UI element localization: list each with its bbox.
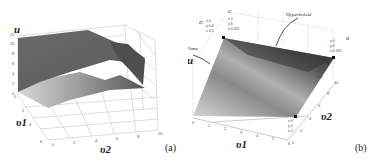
legend-a-z: z 12 xyxy=(316,75,323,79)
x-tick: 10 xyxy=(158,131,163,136)
legend-b-z: z 0.502 xyxy=(330,49,342,53)
y-tick: 0 xyxy=(292,140,295,145)
legend-d-z: z 0.5 xyxy=(206,29,214,33)
y-tick: 6 xyxy=(318,103,321,108)
plane-arrow xyxy=(193,55,210,64)
corner-label-b: B xyxy=(346,36,349,41)
legend-d-x: x 0 xyxy=(206,19,211,23)
panel-b: Hyperboloid Plane u D x 0 y 0.6 z 0.5 C … xyxy=(188,0,378,163)
hyperboloid-annotation: Hyperboloid xyxy=(285,12,312,17)
surface-plot-b: Hyperboloid Plane u D x 0 y 0.6 z 0.5 C … xyxy=(188,0,378,163)
x-tick: 8 xyxy=(137,134,140,139)
legend-a-x: x 6 xyxy=(316,65,321,69)
legend-d-y: y 0.6 xyxy=(206,24,214,28)
surface-plot-a: 0 2 4 6 8 10 12 0 2 4 6 8 10 0 2 4 6 u υ… xyxy=(0,0,190,163)
x-tick: 0 xyxy=(52,142,55,147)
x-tick: 6 xyxy=(288,141,291,146)
legend-c-y: y 6 xyxy=(228,22,233,26)
hyperboloid-arrow xyxy=(276,18,298,46)
y-tick: 8 xyxy=(327,91,330,96)
y-tick: 4 xyxy=(29,122,32,127)
x-tick: 6 xyxy=(116,136,119,141)
legend-b-y: y 6 xyxy=(330,44,335,48)
corner-label-d: D xyxy=(198,20,203,25)
y-axis-label: υ2 xyxy=(321,110,332,122)
y-tick: 4 xyxy=(309,116,312,121)
x-tick: 4 xyxy=(95,138,98,143)
legend-c-z: z 0.502 xyxy=(228,27,240,31)
x-tick: 4 xyxy=(256,133,259,138)
legend-e-z: z 1 xyxy=(288,129,293,133)
plane-annotation: Plane xyxy=(188,46,198,51)
legend-c-x: x 0 xyxy=(228,17,233,21)
z-tick: 8 xyxy=(12,51,15,56)
z-axis-label: u xyxy=(188,54,193,66)
y-axis-label: υ1 xyxy=(16,116,27,128)
z-tick: 10 xyxy=(10,41,15,46)
x-tick: 1 xyxy=(208,123,211,128)
z-tick: 6 xyxy=(12,61,15,66)
x-tick: 0 xyxy=(192,120,195,125)
subfigure-label-a: (a) xyxy=(165,142,176,153)
z-tick: 4 xyxy=(12,71,15,76)
z-axis-label: u xyxy=(14,23,20,35)
x-tick: 2 xyxy=(224,126,227,131)
z-tick: 2 xyxy=(12,81,15,86)
legend-b-x: x 0 xyxy=(330,39,335,43)
panel-a: 0 2 4 6 8 10 12 0 2 4 6 8 10 0 2 4 6 u υ… xyxy=(0,0,190,163)
corner-label-c: C xyxy=(228,9,232,14)
corner-marker xyxy=(332,56,335,59)
y-tick: 6 xyxy=(40,139,43,144)
y-tick: 10 xyxy=(334,80,339,85)
x-axis-label: υ1 xyxy=(236,138,247,150)
x-tick: 3 xyxy=(240,130,243,135)
y-tick: 0 xyxy=(14,94,17,99)
corner-marker xyxy=(222,36,225,39)
x-tick: 2 xyxy=(73,140,76,145)
corner-marker xyxy=(294,115,297,118)
legend-a-y: y 0.2 xyxy=(316,70,324,74)
legend-e-x: x 6 xyxy=(288,119,293,123)
x-axis-label: υ2 xyxy=(100,143,111,155)
y-tick: 2 xyxy=(22,108,25,113)
legend-e-y: y 0 xyxy=(288,124,293,128)
y-tick: 2 xyxy=(300,128,303,133)
subfigure-label-b: (b) xyxy=(355,142,367,153)
